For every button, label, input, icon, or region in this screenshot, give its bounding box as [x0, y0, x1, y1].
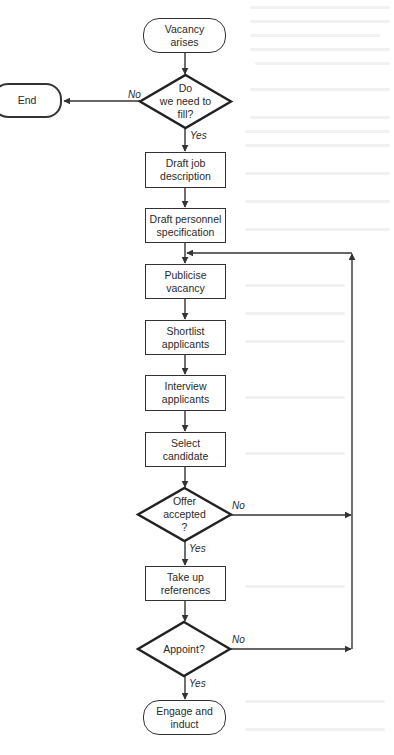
- terminal-engage-and-induct: Engage and induct: [143, 700, 226, 735]
- terminal-vacancy-arises: Vacancy arises: [143, 18, 226, 53]
- edge-label-need-fill-yes: Yes: [190, 130, 207, 141]
- process-select-candidate: Select candidate: [145, 432, 226, 467]
- decision-appoint-label: Appoint?: [138, 622, 230, 676]
- process-interview-applicants: Interview applicants: [145, 375, 226, 411]
- decision-need-fill-label: Do we need to fill?: [140, 75, 231, 128]
- process-take-up-references: Take up references: [145, 566, 226, 601]
- edge-label-appoint-yes: Yes: [189, 678, 206, 689]
- edge-label-offer-no: No: [232, 500, 245, 511]
- process-draft-job-description: Draft job description: [145, 152, 226, 188]
- decision-offer-accepted-label: Offer accepted ?: [138, 488, 231, 541]
- process-shortlist-applicants: Shortlist applicants: [145, 320, 226, 355]
- terminal-end: End: [0, 83, 62, 118]
- edge-label-offer-yes: Yes: [189, 543, 206, 554]
- process-draft-personnel-specification: Draft personnel specification: [145, 208, 226, 243]
- edge-label-need-fill-no: No: [128, 89, 141, 100]
- process-publicise-vacancy: Publicise vacancy: [145, 264, 226, 299]
- edge-label-appoint-no: No: [232, 634, 245, 645]
